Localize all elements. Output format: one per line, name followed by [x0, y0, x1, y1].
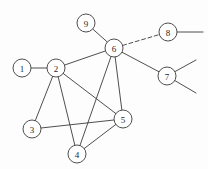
node-3[interactable]: 3: [23, 120, 41, 138]
node-label-2: 2: [54, 64, 59, 74]
node-8[interactable]: 8: [159, 23, 177, 41]
graph-diagram: 123456789: [0, 0, 208, 169]
node-6[interactable]: 6: [105, 39, 123, 57]
edge-6-9: [93, 29, 108, 42]
node-label-9: 9: [84, 19, 89, 29]
node-9[interactable]: 9: [77, 14, 95, 32]
graph-canvas: 123456789: [0, 0, 208, 169]
edges-layer: [31, 29, 159, 149]
node-label-3: 3: [30, 125, 35, 135]
edge-6-7: [122, 52, 159, 72]
node-2[interactable]: 2: [47, 59, 65, 77]
node-7[interactable]: 7: [158, 67, 176, 85]
node-label-5: 5: [121, 115, 126, 125]
stubs-layer: [175, 32, 203, 93]
edge-4-5: [84, 124, 116, 148]
node-label-8: 8: [166, 28, 171, 38]
node-5[interactable]: 5: [114, 110, 132, 128]
stub-edge-7-1: [175, 60, 196, 72]
edge-2-4: [58, 77, 75, 146]
node-label-1: 1: [20, 64, 25, 74]
edge-5-6: [115, 57, 122, 110]
edge-6-8: [123, 35, 160, 46]
node-label-7: 7: [165, 72, 170, 82]
node-1[interactable]: 1: [13, 59, 31, 77]
edge-2-6: [65, 51, 106, 65]
edge-2-5: [63, 73, 116, 113]
edge-3-5: [41, 120, 114, 128]
node-label-6: 6: [112, 44, 117, 54]
node-label-4: 4: [75, 150, 80, 160]
node-4[interactable]: 4: [68, 145, 86, 163]
edge-2-3: [35, 76, 52, 120]
stub-edge-7-2: [175, 81, 196, 93]
